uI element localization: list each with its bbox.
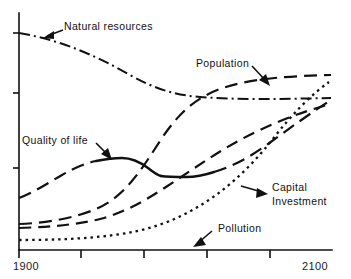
arrow-population xyxy=(252,66,270,86)
series-label-capital-investment-line1: Capital xyxy=(272,180,307,194)
series-quality-of-life-recovery xyxy=(214,100,331,172)
series-label-capital-investment-line2: Investment xyxy=(272,194,327,208)
arrow-pollution xyxy=(193,231,212,247)
limits-to-growth-chart: Natural resources Population Quality of … xyxy=(0,0,351,279)
arrow-capital-investment xyxy=(241,186,268,198)
series-label-natural-resources: Natural resources xyxy=(64,20,153,33)
series-label-population: Population xyxy=(196,57,249,70)
series-quality-of-life-peak xyxy=(96,158,161,176)
series-label-quality-of-life: Quality of life xyxy=(22,134,88,147)
series-pollution xyxy=(19,82,329,240)
series-natural-resources xyxy=(19,33,331,99)
x-axis-label-start: 1900 xyxy=(13,260,39,272)
series-capital-investment xyxy=(19,104,331,228)
arrow-quality-of-life xyxy=(96,143,112,160)
arrow-natural-resources xyxy=(43,30,63,39)
series-quality-of-life-rise xyxy=(19,161,96,198)
x-axis-label-end: 2100 xyxy=(302,260,328,272)
series-label-pollution: Pollution xyxy=(218,222,261,235)
